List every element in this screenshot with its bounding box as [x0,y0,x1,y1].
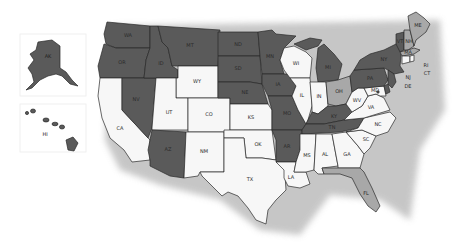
state-label-OH: OH [335,88,343,94]
state-label-MI: MI [325,64,331,70]
state-label-AZ: AZ [165,146,172,152]
state-label-MA: MA [404,49,412,55]
state-label-OR: OR [118,59,126,65]
state-label-WY: WY [193,78,202,84]
state-label-LA: LA [288,174,295,180]
state-label-HI: HI [42,131,47,137]
state-label-KY: KY [331,113,338,119]
state-OR[interactable]: OR [98,44,150,78]
state-WY[interactable]: WY [176,66,218,98]
state-label-OK: OK [254,141,262,147]
state-label-NH: NH [405,38,413,44]
state-label-KS: KS [248,114,254,120]
state-label-NC: NC [374,121,382,127]
state-label-IN: IN [316,93,321,99]
state-NM[interactable]: NM [184,132,224,178]
state-label-WV: WV [353,97,362,103]
state-label-CO: CO [205,111,212,117]
state-label-NY: NY [381,56,389,62]
state-label-CA: CA [117,125,124,131]
state-label-RI: RI [424,62,429,68]
state-label-TX: TX [246,176,254,182]
state-label-PA: PA [367,75,374,81]
state-WA[interactable]: WA [104,22,150,48]
state-label-ME: ME [414,22,421,28]
state-label-MO: MO [283,110,291,116]
state-label-VT: VT [397,38,404,44]
state-label-CT: CT [424,70,431,76]
state-CO[interactable]: CO [188,98,230,132]
state-KS[interactable]: KS [230,104,272,130]
state-ND[interactable]: ND [218,32,260,56]
state-label-GA: GA [343,151,351,157]
state-label-DE: DE [404,83,411,89]
state-label-UT: UT [166,109,174,115]
state-SD[interactable]: SD [218,56,262,84]
state-label-NM: NM [200,148,208,154]
state-label-IL: IL [300,92,304,98]
state-label-SD: SD [234,65,241,71]
state-label-NJ: NJ [405,74,410,80]
state-label-SC: SC [363,136,370,142]
state-label-AK: AK [45,53,52,59]
state-label-IA: IA [276,81,281,87]
state-label-ID: ID [158,60,163,66]
state-label-WI: WI [293,60,299,66]
state-label-NV: NV [132,96,140,102]
state-label-MN: MN [266,53,274,59]
state-label-NE: NE [242,89,249,95]
state-label-WA: WA [124,32,133,38]
state-label-ND: ND [234,41,242,47]
state-label-FL: FL [363,190,369,196]
state-label-MT: MT [186,42,194,48]
state-DC[interactable] [377,91,379,93]
state-label-VA: VA [368,104,375,110]
us-state-map: AK HI WA OR CA NV ID MT WY [0,0,452,245]
state-label-AR: AR [284,143,291,149]
state-label-TN: TN [328,124,336,130]
state-label-MS: MS [303,152,311,158]
state-label-AL: AL [322,151,328,157]
